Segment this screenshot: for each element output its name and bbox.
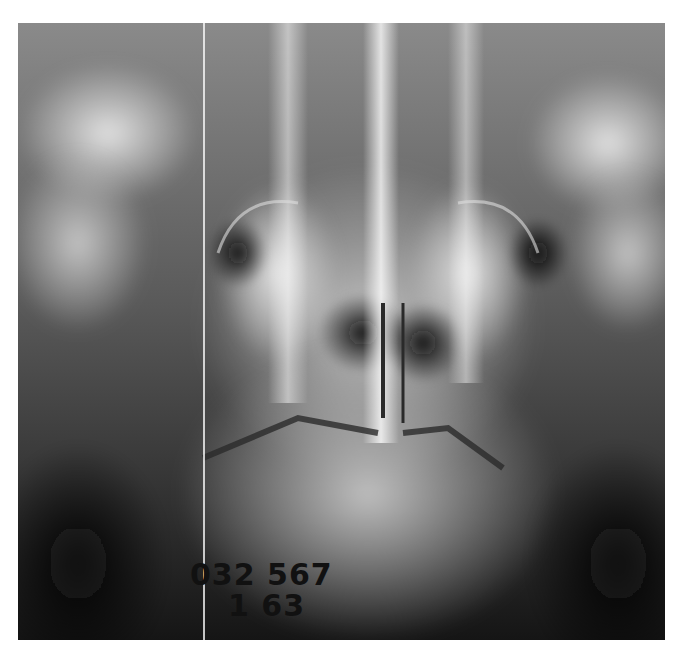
film-scratch-line — [203, 23, 205, 640]
xray-anatomy — [18, 23, 665, 640]
xray-image: 032 567 1 63 — [18, 23, 665, 640]
film-id-line-2: 1 63 — [228, 591, 305, 621]
film-id-line-1: 032 567 — [190, 560, 333, 590]
